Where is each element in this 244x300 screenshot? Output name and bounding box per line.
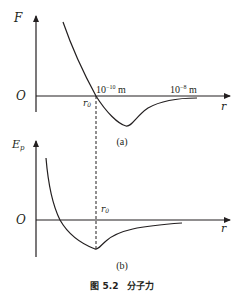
panel-a-r0-label: r0 <box>83 98 91 108</box>
panel-b-label: (b) <box>116 260 128 272</box>
panel-b-origin-label: O <box>16 213 26 227</box>
panel-b-y-label: Ep <box>11 138 25 152</box>
figure-caption: 图 5.2分子力 <box>90 280 153 291</box>
panel-b: Ep O r r0 (b) <box>11 138 230 272</box>
panel-a-x-label: r <box>221 100 227 113</box>
tick-label-1e-10: 10−10 m <box>96 84 126 95</box>
panel-a-y-label: F <box>13 11 23 25</box>
panel-a-origin-label: O <box>16 89 26 103</box>
panel-b-x-label: r <box>221 222 227 235</box>
molecular-force-figure: F O r r0 10−10 m 10−8 m (a) Ep O r r0 (b… <box>0 0 244 300</box>
caption-number: 图 5.2 <box>90 281 118 291</box>
potential-energy-curve <box>46 158 182 249</box>
tick-label-1e-8: 10−8 m <box>170 84 197 95</box>
force-curve <box>63 22 197 126</box>
panel-a: F O r r0 10−10 m 10−8 m (a) <box>13 11 230 148</box>
caption-title: 分子力 <box>127 280 154 291</box>
panel-b-r0-label: r0 <box>101 204 109 214</box>
panel-a-label: (a) <box>116 136 127 148</box>
